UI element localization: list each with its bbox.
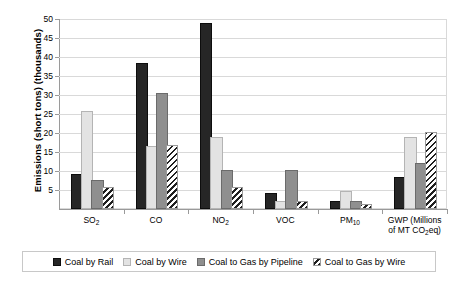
x-axis-category-label: GWP (Millionsof MT CO2eq) [382,215,447,236]
x-axis-tick-mark [124,210,125,214]
solid-mid-gray-swatch-icon [197,258,205,266]
legend-item-label: Coal to Gas by Pipeline [209,257,303,267]
x-axis-category-label: NO2 [188,215,253,226]
y-axis-tick-label: 40 [7,52,53,62]
bar-group [318,19,383,209]
y-axis-tick-label: 30 [7,90,53,100]
y-axis-tick-label: 15 [7,147,53,157]
bar-group [124,19,189,209]
bars-layer [59,19,447,209]
bar-chart: Emissions (short tons) (thousands) 50454… [0,0,459,284]
legend-item[interactable]: Coal by Wire [123,257,187,267]
x-axis-category-label: CO [124,215,189,225]
solid-black-swatch-icon [53,258,61,266]
legend-item[interactable]: Coal to Gas by Wire [313,257,406,267]
x-axis-category-label: PM10 [318,215,383,226]
diagonal-hatch-swatch-icon [313,258,321,266]
bar [231,187,243,209]
bar-group [188,19,253,209]
legend-item-label: Coal by Rail [65,257,114,267]
y-axis-tick-label: 25 [7,109,53,119]
x-axis-tick-mark [188,210,189,214]
bar [360,204,372,209]
y-axis-tick-label: 45 [7,33,53,43]
bar [102,187,114,209]
legend-item[interactable]: Coal by Rail [53,257,114,267]
bar [425,132,437,209]
y-axis-tick-label: 50 [7,14,53,24]
bar-group [59,19,124,209]
y-axis-tick-label: 20 [7,128,53,138]
bar-group [253,19,318,209]
solid-light-gray-swatch-icon [123,258,131,266]
x-axis-tick-mark [253,210,254,214]
y-axis-tick-label: 5 [7,185,53,195]
chart-legend: Coal by RailCoal by WireCoal to Gas by P… [22,251,436,272]
y-axis-tick-label: 10 [7,166,53,176]
legend-item-label: Coal by Wire [135,257,187,267]
x-axis-tick-mark [447,210,448,214]
legend-item[interactable]: Coal to Gas by Pipeline [197,257,303,267]
bar [166,145,178,209]
legend-item-label: Coal to Gas by Wire [325,257,406,267]
bar [296,201,308,209]
x-axis-category-label: SO2 [59,215,124,226]
x-axis-category-label: VOC [253,215,318,225]
y-axis-tick-label: 35 [7,71,53,81]
bar-group [382,19,447,209]
x-axis-tick-mark [382,210,383,214]
x-axis-tick-mark [318,210,319,214]
